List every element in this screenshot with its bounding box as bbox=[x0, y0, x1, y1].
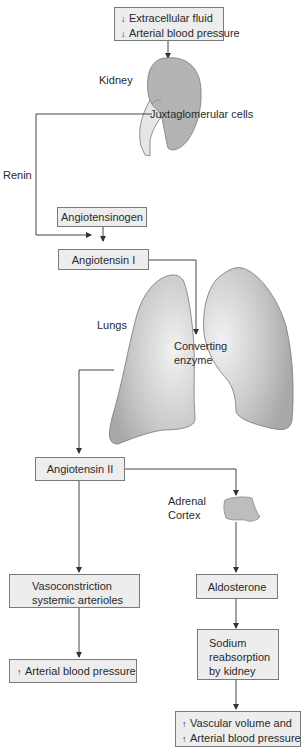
adrenal-cortex-icon bbox=[224, 497, 260, 521]
kidney-label: Kidney bbox=[99, 73, 133, 87]
up-arrow-icon: ↑ bbox=[17, 665, 25, 679]
right-result-box: ↑Vascular volume and ↑Arterial blood pre… bbox=[175, 711, 301, 747]
angiotensinogen-box: Angiotensinogen bbox=[57, 207, 147, 227]
vasoconstriction-box: Vasoconstriction systemic arterioles bbox=[9, 574, 140, 608]
angiotensin-2-box: Angiotensin II bbox=[35, 457, 125, 481]
lungs-label: Lungs bbox=[97, 318, 127, 332]
extracellular-fluid-line: ↓Extracellular fluid bbox=[121, 11, 223, 26]
converting-enzyme-label: Converting enzyme bbox=[174, 339, 227, 367]
left-result-box: ↑Arterial blood pressure bbox=[9, 659, 137, 683]
adrenal-cortex-label: Adrenal Cortex bbox=[168, 494, 206, 522]
arrow-to-adrenal bbox=[125, 469, 236, 495]
down-arrow-icon: ↓ bbox=[121, 12, 129, 26]
sodium-reabsorption-box: Sodium reabsorption by kidney bbox=[197, 629, 279, 680]
up-arrow-icon: ↑ bbox=[182, 717, 190, 731]
renin-label: Renin bbox=[3, 168, 32, 182]
angiotensin-1-box: Angiotensin I bbox=[58, 249, 149, 270]
up-arrow-icon: ↑ bbox=[182, 732, 190, 746]
down-arrow-icon: ↓ bbox=[121, 27, 129, 41]
top-condition-box: ↓Extracellular fluid ↓Arterial blood pre… bbox=[114, 7, 224, 41]
juxtaglomerular-label: Juxtaglomerular cells bbox=[150, 107, 253, 121]
arterial-pressure-line: ↓Arterial blood pressure bbox=[121, 26, 223, 41]
aldosterone-box: Aldosterone bbox=[196, 574, 278, 599]
arrow-to-angiotensin-2 bbox=[79, 370, 114, 453]
